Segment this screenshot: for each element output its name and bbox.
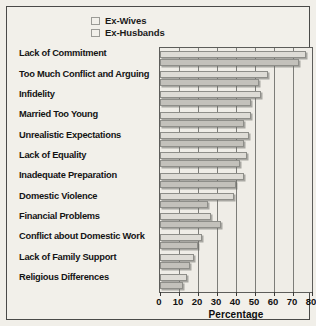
bar-ex-husbands [160,262,190,269]
bar-ex-wives [160,91,261,98]
category-label: Too Much Conflict and Arguing [19,69,155,79]
category-label: Unrealistic Expectations [19,130,155,140]
gridline [293,48,294,292]
category-axis-labels: Lack of CommitmentToo Much Conflict and … [15,45,155,293]
bar-ex-wives [160,173,244,180]
x-axis-tick-label: 50 [249,296,260,307]
legend-swatch-ex-husbands [91,29,100,37]
category-label: Married Too Young [19,109,155,119]
category-label: Domestic Violence [19,191,155,201]
x-axis-title: Percentage [159,309,313,320]
category-label: Lack of Equality [19,150,155,160]
bar-ex-wives [160,274,187,281]
category-label: Lack of Commitment [19,48,155,58]
bar-ex-husbands [160,79,259,86]
x-axis-tick-labels: 01020304050607080 [159,296,313,309]
category-label: Conflict about Domestic Work [19,231,155,241]
legend-item-ex-wives: Ex-Wives [91,15,211,26]
x-axis-tick-label: 10 [173,296,184,307]
category-label: Financial Problems [19,211,155,221]
category-label: Infidelity [19,89,155,99]
bar-ex-wives [160,152,247,159]
x-axis-tick-label: 60 [268,296,279,307]
bar-ex-husbands [160,201,208,208]
category-label: Religious Differences [19,272,155,282]
bar-ex-wives [160,254,194,261]
chart-figure: Ex-Wives Ex-Husbands Lack of CommitmentT… [0,0,316,326]
x-axis-tick-label: 40 [230,296,241,307]
bar-ex-wives [160,213,211,220]
bar-ex-husbands [160,221,221,228]
bar-ex-wives [160,132,249,139]
x-axis-tick-label: 0 [156,296,161,307]
bar-ex-husbands [160,282,183,289]
bar-ex-husbands [160,140,244,147]
x-axis-tick-label: 70 [287,296,298,307]
x-axis-tick-label: 80 [306,296,316,307]
chart-frame: Ex-Wives Ex-Husbands Lack of CommitmentT… [6,6,310,320]
chart-legend: Ex-Wives Ex-Husbands [91,15,211,39]
bar-ex-wives [160,112,251,119]
legend-item-ex-husbands: Ex-Husbands [91,27,211,38]
gridline [274,48,275,292]
bar-ex-wives [160,193,234,200]
legend-swatch-ex-wives [91,17,100,25]
bar-ex-husbands [160,242,198,249]
x-axis-tick-label: 20 [192,296,203,307]
bar-ex-husbands [160,99,251,106]
bar-ex-husbands [160,120,244,127]
bar-ex-wives [160,51,306,58]
x-axis-tick-label: 30 [211,296,222,307]
bar-ex-husbands [160,160,240,167]
legend-label-ex-wives: Ex-Wives [105,15,146,26]
legend-label-ex-husbands: Ex-Husbands [105,27,165,38]
category-label: Inadequate Preparation [19,170,155,180]
bar-ex-wives [160,234,202,241]
bar-ex-wives [160,71,268,78]
bar-ex-husbands [160,181,236,188]
plot-area [159,47,313,293]
bar-ex-husbands [160,59,299,66]
category-label: Lack of Family Support [19,252,155,262]
